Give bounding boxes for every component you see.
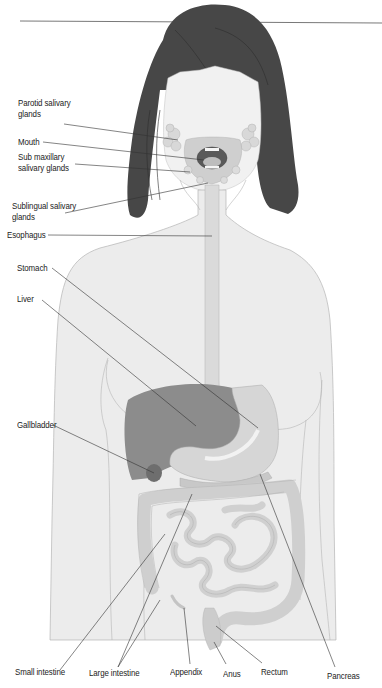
label-parotid-salivary-glands: Parotid salivary glands	[18, 98, 71, 119]
label-pancreas: Pancreas	[327, 671, 360, 682]
label-gallbladder: Gallbladder	[17, 420, 56, 431]
label-rectum: Rectum	[261, 667, 288, 678]
teeth-upper	[205, 148, 219, 151]
label-liver: Liver	[17, 294, 34, 305]
label-stomach: Stomach	[17, 263, 48, 274]
label-small-intestine: Small intestine	[15, 667, 65, 678]
label-appendix: Appendix	[170, 667, 202, 678]
tongue	[203, 157, 221, 167]
label-sub-maxillary-salivary-glands: Sub maxillary salivary glands	[18, 152, 69, 173]
label-anus: Anus	[223, 669, 241, 680]
label-large-intestine: Large intestine	[89, 668, 139, 679]
label-mouth: Mouth	[18, 137, 40, 148]
digestive-system-diagram: Parotid salivary glands Mouth Sub maxill…	[0, 0, 382, 688]
leader-parotid	[64, 124, 178, 140]
teeth-lower	[205, 166, 219, 169]
label-esophagus: Esophagus	[7, 230, 46, 241]
label-sublingual-salivary-glands: Sublingual salivary glands	[12, 201, 76, 222]
